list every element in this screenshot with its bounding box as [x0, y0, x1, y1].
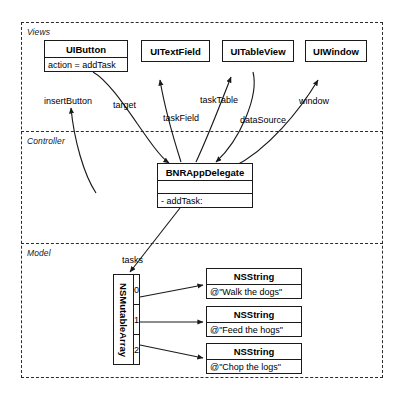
object-title-nsstring-0: NSString	[207, 269, 301, 284]
class-title-bnrappdelegate: BNRAppDelegate	[158, 164, 252, 180]
object-value-nsstring-2: @"Chop the logs"	[207, 359, 301, 374]
array-index-2[interactable]: 2	[134, 334, 139, 364]
tier-label-views: Views	[27, 27, 50, 37]
edge-label-taskTable: taskTable	[200, 95, 238, 105]
class-box-bnrappdelegate[interactable]: BNRAppDelegate - addTask:	[157, 163, 253, 208]
class-attribute-uibutton-action: action = addTask	[45, 57, 127, 72]
class-box-uitextfield[interactable]: UITextField	[141, 40, 210, 62]
object-box-nsmutablearray[interactable]: NSMutableArray 0 1 2	[113, 274, 140, 365]
object-box-nsstring-0[interactable]: NSString @"Walk the dogs"	[206, 268, 302, 299]
tier-label-controller: Controller	[27, 136, 65, 146]
diagram-canvas: Views Controller Model UIButton	[0, 0, 404, 401]
partition-divider-views-controller	[21, 131, 383, 132]
object-title-nsmutablearray: NSMutableArray	[118, 283, 129, 357]
class-title-uitextfield: UITextField	[142, 41, 209, 61]
nsmutablearray-index-column: 0 1 2	[134, 275, 139, 364]
edge-label-dataSource: dataSource	[240, 115, 286, 125]
class-attributes-bnrappdelegate	[158, 180, 252, 193]
class-title-uiwindow: UIWindow	[306, 41, 366, 61]
object-title-nsstring-1: NSString	[207, 307, 301, 322]
edge-label-target: target	[113, 100, 136, 110]
class-box-uitableview[interactable]: UITableView	[222, 40, 294, 62]
class-box-uiwindow[interactable]: UIWindow	[305, 40, 367, 62]
object-title-nsstring-2: NSString	[207, 344, 301, 359]
array-index-0[interactable]: 0	[134, 275, 139, 304]
edge-label-window: window	[299, 96, 329, 106]
class-title-uibutton: UIButton	[45, 41, 127, 57]
nsmutablearray-class-column: NSMutableArray	[114, 275, 134, 364]
tier-label-model: Model	[27, 248, 51, 258]
object-box-nsstring-2[interactable]: NSString @"Chop the logs"	[206, 343, 302, 374]
object-box-nsstring-1[interactable]: NSString @"Feed the hogs"	[206, 306, 302, 337]
partition-divider-controller-model	[21, 243, 383, 244]
class-title-uitableview: UITableView	[223, 41, 293, 61]
class-box-uibutton[interactable]: UIButton action = addTask	[44, 40, 128, 72]
edge-label-taskField: taskField	[163, 113, 199, 123]
edge-label-insertButton: insertButton	[44, 96, 92, 106]
object-value-nsstring-0: @"Walk the dogs"	[207, 284, 301, 299]
edge-label-tasks: tasks	[122, 255, 143, 265]
array-index-1[interactable]: 1	[134, 304, 139, 334]
object-value-nsstring-1: @"Feed the hogs"	[207, 322, 301, 337]
class-method-bnrappdelegate-addtask: - addTask:	[158, 193, 252, 207]
